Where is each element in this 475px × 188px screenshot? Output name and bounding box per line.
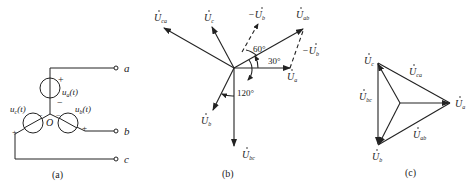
source-a-label: ua(t)	[62, 87, 78, 98]
angle-60-label: 60°	[253, 44, 266, 54]
label-c-Uc: Uc	[364, 55, 374, 67]
terminal-c	[114, 157, 118, 161]
caption-c: (c)	[405, 167, 416, 179]
source-c-plus: +	[12, 127, 17, 137]
label-Uc: Uc	[204, 12, 214, 24]
source-b-minus: −	[56, 111, 61, 120]
neutral-node-label: O	[46, 117, 53, 128]
source-a-plus: +	[58, 74, 64, 85]
terminal-b-label: b	[124, 125, 130, 137]
wire-c	[15, 134, 114, 159]
figure-b-phasors	[164, 24, 303, 146]
label-Ubc: Ubc	[242, 149, 255, 161]
figure-c-labels: Uc Uca Ubc Ua Uab Ub (c)	[359, 55, 465, 179]
label-Ub: Ub	[201, 115, 211, 127]
arc-right	[248, 60, 252, 80]
source-a-minus: −	[57, 97, 63, 108]
angle-120-label: 120°	[237, 88, 255, 98]
label-neg-Ub-top: −Ub	[248, 9, 265, 21]
arc-30	[255, 56, 258, 68]
label-Uab: Uab	[296, 9, 309, 21]
caption-a: (a)	[52, 169, 63, 181]
figure-a-circuit	[15, 66, 118, 161]
terminal-a	[114, 66, 118, 70]
source-c-label: uc(t)	[10, 104, 26, 115]
arc-120	[222, 94, 234, 96]
figure-b-labels: Uca Uc −Ub Uab −Ub Ua Ub Ubc 60° 30° 120…	[154, 9, 319, 180]
label-c-Uca: Uca	[409, 66, 422, 78]
label-c-Ubc: Ubc	[359, 91, 372, 103]
three-phase-diagram: a b c O + − ua(t) ub(t) − + uc(t) − + (a…	[0, 0, 475, 188]
label-c-Ua: Ua	[455, 98, 465, 110]
label-Uca: Uca	[154, 12, 167, 24]
source-b-label: ub(t)	[75, 104, 91, 115]
label-neg-Ub-right: −Ub	[302, 45, 319, 57]
terminal-c-label: c	[124, 153, 129, 165]
source-b-plus: +	[82, 123, 87, 133]
terminal-b	[114, 129, 118, 133]
angle-30-label: 30°	[268, 56, 281, 66]
label-Ua: Ua	[287, 71, 297, 83]
label-c-Uab: Uab	[413, 129, 426, 141]
label-c-Ub: Ub	[372, 151, 382, 163]
star-Uc	[378, 64, 400, 103]
caption-b: (b)	[222, 168, 234, 180]
terminal-a-label: a	[124, 62, 130, 74]
phasor-Ub	[213, 68, 234, 110]
source-c-minus: −	[38, 111, 43, 120]
